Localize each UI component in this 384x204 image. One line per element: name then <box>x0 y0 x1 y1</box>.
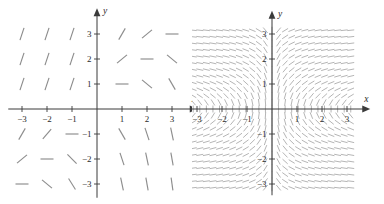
slope-segment <box>210 134 216 137</box>
slope-segment <box>192 187 197 188</box>
slope-segment <box>309 93 313 98</box>
slope-segment <box>321 154 328 156</box>
slope-segment <box>117 55 127 63</box>
slope-segment <box>236 49 243 51</box>
x-axis-tick-label: 1 <box>295 114 300 124</box>
dense-axis-labels: −3−2−1123321−1−2−3xy <box>192 9 369 190</box>
slope-segment <box>210 62 217 64</box>
slope-segment <box>209 49 216 50</box>
slope-segment <box>277 145 280 151</box>
slope-segment <box>192 161 197 162</box>
slope-segment <box>196 154 203 155</box>
slope-segment <box>196 56 203 57</box>
slope-segment <box>347 56 354 57</box>
slope-segment <box>209 167 216 168</box>
slope-segment <box>258 112 259 119</box>
slope-segment <box>216 56 223 58</box>
slope-segment <box>315 87 321 91</box>
slope-segment <box>323 99 326 105</box>
slope-segment <box>328 187 335 188</box>
slope-segment <box>216 181 223 182</box>
slope-segment <box>236 187 243 189</box>
slope-segment <box>277 172 281 178</box>
slope-segment <box>302 62 308 65</box>
slope-segment <box>203 148 210 150</box>
slope-segment <box>230 126 235 130</box>
slope-segment <box>236 42 243 44</box>
slope-segment <box>216 154 223 156</box>
slope-segment <box>145 128 149 140</box>
slope-segment <box>236 147 242 150</box>
y-axis-tick-label: 2 <box>87 54 92 64</box>
slope-segment <box>196 49 203 50</box>
slope-segment <box>229 167 236 169</box>
slope-segment <box>249 42 255 45</box>
slope-segment <box>295 173 302 175</box>
slope-segment <box>252 112 253 119</box>
slope-segment <box>301 187 308 189</box>
slope-segment <box>321 167 328 168</box>
slope-segment <box>347 161 354 162</box>
slope-segment <box>223 81 229 84</box>
slope-segment <box>211 113 215 119</box>
slope-segment <box>203 174 210 175</box>
slope-segment <box>301 180 308 182</box>
slope-segment <box>297 99 299 106</box>
slope-segment <box>316 93 321 98</box>
slope-segment <box>341 82 348 84</box>
slope-segment <box>243 167 250 170</box>
slope-segment <box>167 55 177 63</box>
slope-segment <box>196 187 203 188</box>
slope-segment <box>203 69 210 71</box>
slope-segment <box>236 81 242 85</box>
x-axis-tick-label: −2 <box>217 114 227 124</box>
slope-segment <box>256 41 262 45</box>
slope-segment <box>347 181 354 182</box>
x-axis-arrow-icon <box>362 106 370 113</box>
slope-segment <box>342 100 346 106</box>
slope-segment <box>328 62 335 64</box>
slope-segment <box>335 94 341 98</box>
slope-segment <box>264 66 267 72</box>
slope-segment <box>289 42 295 45</box>
slope-segment <box>263 172 267 178</box>
slope-segment <box>309 87 314 91</box>
slope-segment <box>284 125 287 131</box>
slope-segment <box>295 36 302 38</box>
slope-segment <box>288 29 294 32</box>
slope-segment <box>329 99 333 105</box>
slope-segment <box>278 132 280 139</box>
slope-segment <box>284 119 286 126</box>
slope-segment <box>347 30 354 31</box>
slope-segment <box>236 55 243 57</box>
slope-segment <box>249 153 255 157</box>
slope-segment <box>303 119 307 125</box>
slope-segment <box>70 78 74 90</box>
slope-segment <box>328 147 335 149</box>
slope-segment <box>223 36 230 37</box>
slope-segment <box>192 141 197 143</box>
slope-segment <box>295 61 301 64</box>
slope-segment <box>236 133 242 137</box>
slope-segment <box>321 56 328 58</box>
slope-segment <box>334 148 341 150</box>
slope-segment <box>229 55 236 57</box>
slope-segment <box>277 40 281 46</box>
slope-segment <box>277 66 280 72</box>
slope-segment <box>256 48 261 52</box>
slope-segment <box>265 119 266 126</box>
slope-segment <box>308 140 314 143</box>
slope-segment <box>243 147 249 151</box>
slope-segment <box>196 82 203 84</box>
slope-segment <box>196 36 203 37</box>
slope-segment <box>295 74 301 78</box>
slope-segment <box>288 186 294 189</box>
slope-segment <box>321 36 328 37</box>
slope-segment <box>209 187 216 188</box>
slope-segment <box>244 126 248 131</box>
slope-segment <box>290 86 294 92</box>
slope-segment <box>328 49 335 50</box>
slope-segment <box>341 75 348 77</box>
slope-segment <box>302 81 308 85</box>
slope-segment <box>302 68 308 71</box>
